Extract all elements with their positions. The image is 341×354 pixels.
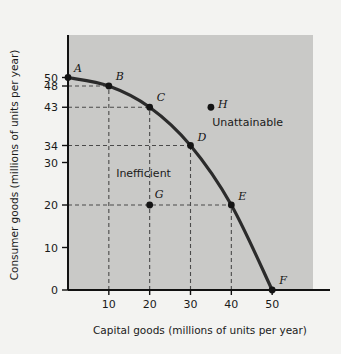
data-point-d: [187, 142, 194, 149]
x-tick-label: 30: [184, 298, 198, 311]
point-label-a: A: [73, 62, 82, 75]
point-label-c: C: [157, 91, 166, 104]
data-point-g: [146, 202, 153, 209]
y-tick-label: 34: [44, 140, 58, 153]
point-label-f: F: [278, 274, 287, 287]
y-tick-label: 50: [44, 72, 58, 85]
y-axis-title: Consumer goods (millions of units per ye…: [8, 50, 20, 281]
y-tick-label: 43: [44, 101, 58, 114]
region-label-inefficient: Inefficient: [116, 167, 171, 180]
ppf-chart-figure: 1020304050010203034434850 ABCDEFGH Unatt…: [0, 0, 341, 354]
x-tick-label: 10: [102, 298, 116, 311]
point-label-g: G: [155, 188, 164, 201]
data-point-h: [208, 104, 215, 111]
x-tick-label: 50: [265, 298, 279, 311]
y-tick-label: 10: [44, 242, 58, 255]
x-tick-label: 40: [224, 298, 238, 311]
data-point-f: [269, 287, 276, 294]
data-point-c: [146, 104, 153, 111]
data-point-a: [65, 74, 72, 81]
x-tick-label: 20: [143, 298, 157, 311]
region-label-unattainable: Unattainable: [212, 116, 283, 129]
point-label-b: B: [115, 70, 124, 83]
point-label-h: H: [217, 98, 228, 111]
data-point-e: [228, 202, 235, 209]
point-label-d: D: [197, 131, 207, 144]
y-tick-label: 0: [51, 284, 58, 297]
ppf-chart-svg: 1020304050010203034434850 ABCDEFGH Unatt…: [0, 0, 341, 354]
y-tick-label: 20: [44, 199, 58, 212]
point-label-e: E: [237, 190, 246, 203]
y-tick-label: 30: [44, 157, 58, 170]
data-point-b: [105, 83, 112, 90]
x-axis-title: Capital goods (millions of units per yea…: [93, 324, 307, 336]
